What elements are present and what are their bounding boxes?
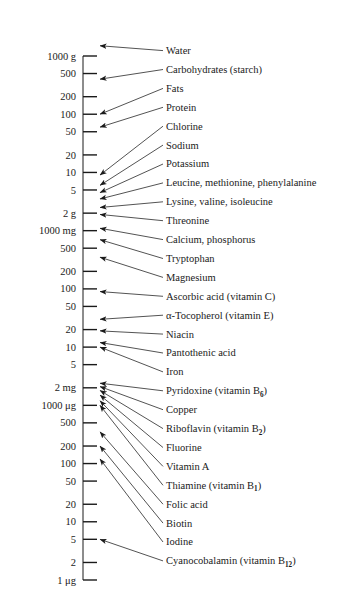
axis-tick-label: 5 bbox=[71, 359, 76, 370]
leader-arrow bbox=[100, 432, 163, 504]
axis-tick-label: 200 bbox=[60, 266, 76, 277]
leader-arrow bbox=[100, 390, 163, 428]
log-scale-chart: 1000 g50020010050201052 g1000 mg50020010… bbox=[0, 0, 340, 603]
leader-arrow bbox=[100, 331, 163, 334]
axis-tick-label: 1000 μg bbox=[41, 400, 76, 411]
axis-tick-label: 100 bbox=[60, 458, 76, 469]
nutrient-label: Thiamine (vitamin B1) bbox=[166, 480, 262, 494]
nutrient-label: Biotin bbox=[166, 518, 193, 529]
leader-arrow bbox=[100, 202, 163, 208]
nutrient-label: Pyridoxine (vitamin B6) bbox=[166, 385, 268, 399]
leader-arrow bbox=[100, 395, 163, 447]
nutrient-label: Threonine bbox=[166, 215, 209, 226]
axis-tick-label: 100 bbox=[60, 109, 76, 120]
axis-tick-label: 50 bbox=[66, 476, 77, 487]
leader-arrow bbox=[100, 401, 163, 467]
nutrient-label: Lysine, valine, isoleucine bbox=[166, 196, 273, 207]
nutrient-label: Folic acid bbox=[166, 499, 208, 510]
nutrient-requirement-figure: 1000 g50020010050201052 g1000 mg50020010… bbox=[0, 0, 340, 603]
nutrient-label: Magnesium bbox=[166, 272, 216, 283]
axis-tick-label: 200 bbox=[60, 441, 76, 452]
leader-arrow bbox=[100, 214, 163, 220]
nutrient-label: Riboflavin (vitamin B2) bbox=[166, 423, 266, 437]
axis-tick-label: 500 bbox=[60, 417, 76, 428]
nutrient-label: Ascorbic acid (vitamin C) bbox=[166, 291, 276, 303]
nutrient-label: Water bbox=[166, 45, 191, 56]
nutrient-label: Protein bbox=[166, 102, 197, 113]
nutrient-labels: WaterCarbohydrates (starch)FatsProteinCh… bbox=[166, 45, 317, 569]
leader-arrow bbox=[100, 292, 163, 297]
axis-tick-label: 50 bbox=[66, 301, 77, 312]
axis-tick-label: 100 bbox=[60, 283, 76, 294]
nutrient-label: Chlorine bbox=[166, 121, 203, 132]
axis-tick-label: 1000 mg bbox=[39, 225, 77, 236]
leader-arrow bbox=[100, 183, 163, 199]
axis-group: 1000 g50020010050201052 g1000 mg50020010… bbox=[39, 51, 97, 586]
axis-tick-label: 1000 g bbox=[47, 51, 77, 62]
axis-tick-label: 200 bbox=[60, 91, 76, 102]
axis-tick-label: 2 mg bbox=[55, 382, 77, 393]
nutrient-label: Fats bbox=[166, 83, 184, 94]
axis-tick-label: 10 bbox=[66, 516, 77, 527]
nutrient-label: Copper bbox=[166, 404, 197, 415]
nutrient-label: Calcium, phosphorus bbox=[166, 234, 255, 245]
leader-arrow bbox=[100, 46, 163, 51]
leader-arrow bbox=[100, 446, 163, 523]
leader-arrow bbox=[100, 240, 163, 259]
leader-arrow bbox=[100, 387, 163, 410]
leader-arrow bbox=[100, 164, 163, 193]
nutrient-label: Fluorine bbox=[166, 442, 202, 453]
leader-arrow bbox=[100, 347, 163, 372]
axis-tick-label: 10 bbox=[66, 167, 77, 178]
axis-tick-label: 20 bbox=[66, 150, 77, 161]
axis-tick-labels: 1000 g50020010050201052 g1000 mg50020010… bbox=[39, 51, 77, 586]
leader-arrow bbox=[100, 70, 163, 80]
nutrient-label: Cyanocobalamin (vitamin B12) bbox=[166, 555, 296, 569]
nutrient-label: Niacin bbox=[166, 329, 195, 340]
axis-tick-label: 1 μg bbox=[57, 575, 77, 586]
leader-arrow bbox=[100, 315, 163, 319]
leader-arrow bbox=[100, 405, 163, 485]
axis-tick-label: 50 bbox=[66, 126, 77, 137]
axis-tick-label: 500 bbox=[60, 68, 76, 79]
axis-tick-label: 2 bbox=[71, 557, 76, 568]
leader-arrow bbox=[100, 228, 163, 239]
axis-tick-label: 20 bbox=[66, 324, 77, 335]
leader-arrow bbox=[100, 539, 163, 561]
axis-tick-label: 5 bbox=[71, 534, 76, 545]
leader-arrow bbox=[100, 257, 163, 277]
axis-tick-label: 5 bbox=[71, 185, 76, 196]
nutrient-label: Iron bbox=[166, 366, 184, 377]
leader-arrow bbox=[100, 145, 163, 185]
axis-tick-label: 500 bbox=[60, 243, 76, 254]
nutrient-label: α-Tocopherol (vitamin E) bbox=[166, 310, 274, 322]
nutrient-label: Iodine bbox=[166, 536, 193, 547]
nutrient-label: Vitamin A bbox=[166, 461, 210, 472]
leader-arrow bbox=[100, 126, 163, 175]
nutrient-label: Potassium bbox=[166, 158, 209, 169]
axis-tick-label: 20 bbox=[66, 499, 77, 510]
leader-arrows bbox=[100, 46, 163, 561]
nutrient-label: Pantothenic acid bbox=[166, 347, 236, 358]
nutrient-label: Tryptophan bbox=[166, 253, 215, 264]
axis-tick-label: 10 bbox=[66, 342, 77, 353]
leader-arrow bbox=[100, 343, 163, 353]
axis-ticks bbox=[83, 56, 97, 580]
nutrient-label: Sodium bbox=[166, 140, 199, 151]
nutrient-label: Leucine, methionine, phenylalanine bbox=[166, 177, 317, 188]
leader-arrow bbox=[100, 459, 163, 542]
axis-tick-label: 2 g bbox=[63, 208, 77, 219]
nutrient-label: Carbohydrates (starch) bbox=[166, 64, 262, 76]
